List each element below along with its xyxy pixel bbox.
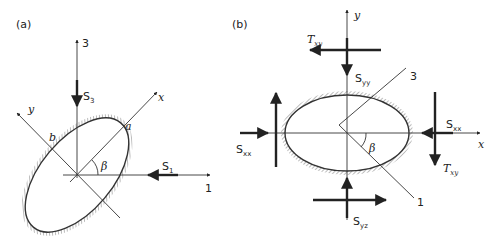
panel-b-label: (b) (232, 18, 248, 31)
axis-x-label: x (158, 91, 165, 104)
axis-3-label: 3 (82, 37, 89, 50)
stress-sxx-left-label: Sxx (236, 143, 251, 158)
panel-a-label: (a) (16, 18, 31, 31)
stress-sxx-right-label: Sxx (446, 118, 461, 133)
panel-a: (a) 3 S3 1 S1 x y a b β (0, 18, 212, 239)
panel-b: (b) y x 3 1 β Txy Syy Sxx Sxx (232, 9, 485, 230)
semi-axis-a-label: a (125, 120, 132, 133)
axis-y-label: y (27, 103, 35, 116)
stress-diagram: (a) 3 S3 1 S1 x y a b β (b) (0, 0, 498, 239)
axis-1-label: 1 (205, 182, 212, 195)
angle-beta-label: β (100, 160, 107, 173)
semi-axis-b-label: b (49, 131, 56, 144)
stress-syy-label: Syy (355, 72, 370, 87)
axis-x-label: x (478, 138, 485, 151)
axis-1-label: 1 (417, 196, 424, 209)
stress-s3-label: S3 (83, 90, 94, 105)
stress-syz-label: Syz (353, 215, 368, 230)
angle-beta-label: β (368, 142, 375, 155)
axis-y-label: y (353, 9, 361, 22)
stress-txy-right-label: Txy (443, 162, 459, 177)
stress-s1-label: S1 (162, 160, 173, 175)
stress-txy-top-label: Txy (307, 33, 323, 48)
axis-3-label: 3 (410, 70, 417, 83)
